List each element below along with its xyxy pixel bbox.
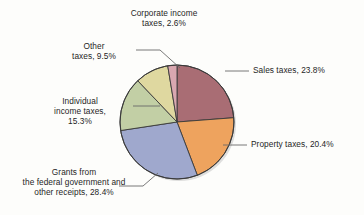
pie-chart: Corporate income taxes, 2.6% Other taxes… [0,0,364,215]
slice-label-property-taxes: Property taxes, 20.4% [251,139,363,149]
slice-label-other-taxes: Other taxes, 9.5% [52,41,136,61]
pie-slice-sales-taxes [177,65,234,122]
pie-slice-group [120,65,234,179]
slice-label-sales-taxes: Sales taxes, 23.8% [253,65,363,75]
slice-label-corporate-income-taxes: Corporate income taxes, 2.6% [108,8,220,28]
slice-label-individual-income-taxes: Individual income taxes, 15.3% [30,96,130,127]
slice-label-grants-federal-government: Grants from the federal government and o… [0,167,148,198]
